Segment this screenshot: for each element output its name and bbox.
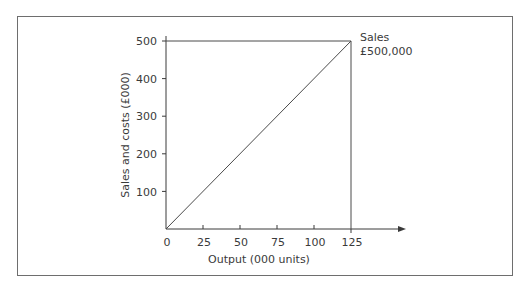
y-ticks (162, 41, 166, 191)
y-axis-title: Sales and costs (£000) (119, 72, 132, 198)
sales-annotation-value: £500,000 (360, 45, 413, 58)
sales-line (166, 41, 351, 229)
x-tick-0: 0 (164, 236, 171, 249)
x-axis-title: Output (000 units) (208, 253, 310, 266)
y-tick-100: 100 (136, 186, 157, 199)
y-tick-200: 200 (136, 148, 157, 161)
x-tick-50: 50 (234, 236, 248, 249)
y-tick-400: 400 (136, 73, 157, 86)
sales-annotation-title: Sales (360, 31, 390, 44)
y-tick-500: 500 (136, 35, 157, 48)
x-tick-125: 125 (342, 236, 363, 249)
x-tick-25: 25 (197, 236, 211, 249)
y-tick-labels: 100 200 300 400 500 (136, 35, 157, 198)
x-tick-100: 100 (305, 236, 326, 249)
x-tick-75: 75 (271, 236, 285, 249)
x-tick-labels: 0 25 50 75 100 125 (164, 236, 363, 249)
break-even-chart: 100 200 300 400 500 0 25 50 75 100 125 S… (0, 0, 532, 294)
x-axis-arrow-icon (398, 226, 406, 232)
y-tick-300: 300 (136, 110, 157, 123)
